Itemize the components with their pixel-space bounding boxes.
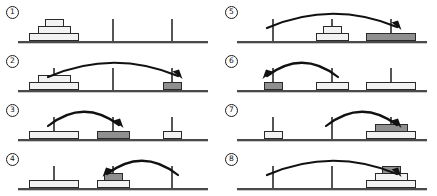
disk-medium bbox=[97, 131, 130, 139]
peg-rod bbox=[272, 19, 274, 41]
disk-large bbox=[29, 180, 79, 188]
disk-large bbox=[366, 131, 416, 139]
hanoi-step-panel: 1 bbox=[0, 0, 218, 49]
disk-small bbox=[104, 173, 123, 181]
hanoi-step-panel: 7 bbox=[219, 98, 437, 147]
disk-medium bbox=[38, 75, 71, 83]
step-number-badge: 6 bbox=[225, 55, 238, 68]
peg-rod bbox=[331, 166, 333, 188]
panel-column-left: 1234 bbox=[0, 0, 218, 196]
move-arrow bbox=[38, 103, 129, 129]
disk-medium bbox=[97, 180, 130, 188]
disk-small bbox=[163, 131, 182, 139]
step-number-badge: 4 bbox=[6, 153, 19, 166]
disk-large bbox=[366, 180, 416, 188]
hanoi-step-panel: 5 bbox=[219, 0, 437, 49]
disk-large bbox=[29, 131, 79, 139]
base-line bbox=[237, 139, 427, 141]
disk-large bbox=[29, 33, 79, 41]
disk-medium bbox=[375, 173, 408, 181]
panel-column-right: 5678 bbox=[219, 0, 437, 196]
step-number-badge: 8 bbox=[225, 153, 238, 166]
peg-rod bbox=[171, 166, 173, 188]
disk-small bbox=[323, 26, 342, 34]
base-line bbox=[18, 90, 208, 92]
step-number-badge: 1 bbox=[6, 6, 19, 19]
peg-rod bbox=[331, 117, 333, 139]
hanoi-step-panel: 4 bbox=[0, 147, 218, 196]
base-line bbox=[18, 41, 208, 43]
peg-rod bbox=[171, 19, 173, 41]
base-line bbox=[18, 188, 208, 190]
base-line bbox=[18, 139, 208, 141]
disk-small bbox=[264, 131, 283, 139]
disk-medium bbox=[316, 82, 349, 90]
disk-medium bbox=[375, 124, 408, 132]
step-number-badge: 5 bbox=[225, 6, 238, 19]
hanoi-step-panel: 2 bbox=[0, 49, 218, 98]
hanoi-step-panel: 6 bbox=[219, 49, 437, 98]
disk-medium bbox=[316, 33, 349, 41]
tower-of-hanoi-figure: 1234 5678 bbox=[0, 0, 437, 196]
move-arrow bbox=[257, 54, 348, 80]
disk-medium bbox=[38, 26, 71, 34]
hanoi-step-panel: 8 bbox=[219, 147, 437, 196]
peg-rod bbox=[272, 166, 274, 188]
base-line bbox=[237, 188, 427, 190]
step-number-badge: 3 bbox=[6, 104, 19, 117]
peg-rod bbox=[112, 68, 114, 90]
hanoi-step-panel: 3 bbox=[0, 98, 218, 147]
step-number-badge: 2 bbox=[6, 55, 19, 68]
disk-small bbox=[163, 82, 182, 90]
disk-small bbox=[45, 19, 64, 27]
disk-large bbox=[366, 82, 416, 90]
disk-small bbox=[382, 166, 401, 174]
step-number-badge: 7 bbox=[225, 104, 238, 117]
peg-rod bbox=[112, 19, 114, 41]
disk-large bbox=[366, 33, 416, 41]
disk-large bbox=[29, 82, 79, 90]
base-line bbox=[237, 41, 427, 43]
base-line bbox=[237, 90, 427, 92]
disk-small bbox=[264, 82, 283, 90]
